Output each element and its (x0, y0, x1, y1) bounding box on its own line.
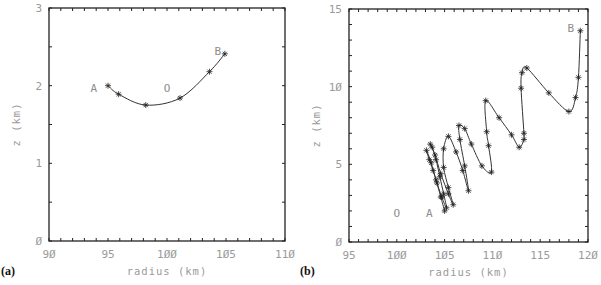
asterisk-marker (466, 188, 472, 194)
x-tick-label: 9Ø (42, 248, 56, 261)
asterisk-marker (521, 136, 527, 142)
asterisk-marker (575, 74, 581, 80)
x-tick-label: 1Ø5 (216, 248, 236, 261)
asterisk-marker (177, 95, 183, 101)
x-tick-label: 95 (101, 248, 114, 261)
x-tick-label: 11Ø (482, 249, 502, 262)
point-label-o: O (393, 207, 400, 220)
x-axis-title: radius (km) (127, 265, 208, 277)
asterisk-marker (430, 168, 436, 174)
x-tick-label: 1ØØ (387, 249, 407, 262)
x-tick-label: 12Ø (578, 249, 598, 262)
asterisk-marker (457, 136, 463, 142)
panel-b: 951ØØ1Ø511Ø11512ØØ51Ø15radius (km)z (km)… (300, 0, 601, 285)
asterisk-marker (546, 90, 552, 96)
asterisk-marker (483, 98, 489, 104)
asterisk-marker (445, 185, 451, 191)
panel-label-b: (b) (300, 264, 315, 279)
y-tick-label: 2 (35, 80, 42, 93)
trajectory-curve (108, 54, 225, 105)
asterisk-marker (441, 146, 447, 152)
asterisk-marker (222, 51, 228, 57)
plot-frame (49, 8, 285, 241)
asterisk-marker (486, 143, 492, 149)
chart-b: 951ØØ1Ø511Ø11512ØØ51Ø15radius (km)z (km)… (300, 0, 601, 285)
asterisk-marker (428, 160, 434, 166)
panel-a: 9Ø951ØØ1Ø511ØØ123radius (km)z (km)AOB (0, 0, 300, 285)
point-label-o: O (164, 82, 171, 95)
asterisk-marker (116, 91, 122, 97)
asterisk-marker (524, 65, 530, 71)
asterisk-marker (423, 147, 429, 153)
asterisk-marker (509, 132, 515, 138)
asterisk-marker (105, 83, 111, 89)
y-axis-title: z (km) (310, 104, 322, 148)
asterisk-marker (468, 141, 474, 147)
asterisk-marker (453, 149, 459, 155)
x-tick-label: 115 (530, 249, 550, 262)
y-tick-label: 1Ø (329, 81, 343, 94)
asterisk-marker (573, 95, 579, 101)
y-axis-title: z (km) (10, 103, 22, 147)
asterisk-marker (518, 85, 524, 91)
y-tick-label: 15 (329, 3, 342, 16)
x-axis-title: radius (km) (428, 266, 509, 278)
y-tick-label: 5 (335, 158, 342, 171)
trajectory-curve (426, 31, 580, 211)
x-tick-label: 1ØØ (157, 248, 177, 261)
asterisk-marker (488, 169, 494, 175)
x-tick-label: 11Ø (275, 248, 295, 261)
x-tick-label: 95 (342, 249, 355, 262)
point-label-b: B (567, 22, 574, 35)
asterisk-marker (432, 152, 438, 158)
y-tick-label: Ø (35, 235, 42, 248)
chart-a: 9Ø951ØØ1Ø511ØØ123radius (km)z (km)AOB (0, 0, 300, 285)
asterisk-marker (433, 157, 439, 163)
asterisk-marker (456, 123, 462, 129)
asterisk-marker (441, 164, 447, 170)
asterisk-marker (143, 102, 149, 108)
point-label-a: A (426, 207, 433, 220)
asterisk-marker (521, 130, 527, 136)
y-tick-label: 1 (35, 157, 42, 170)
panel-label-a: (a) (1, 264, 15, 279)
point-label-a: A (91, 82, 98, 95)
y-tick-label: Ø (335, 236, 342, 249)
asterisk-marker (484, 129, 490, 135)
asterisk-marker (496, 115, 502, 121)
point-label-b: B (214, 45, 221, 58)
asterisk-marker (450, 202, 456, 208)
asterisk-marker (516, 144, 522, 150)
asterisk-marker (577, 28, 583, 34)
y-tick-label: 3 (35, 2, 42, 15)
asterisk-marker (519, 70, 525, 76)
asterisk-marker (566, 109, 572, 115)
x-tick-label: 1Ø5 (435, 249, 455, 262)
plot-frame (349, 9, 588, 242)
